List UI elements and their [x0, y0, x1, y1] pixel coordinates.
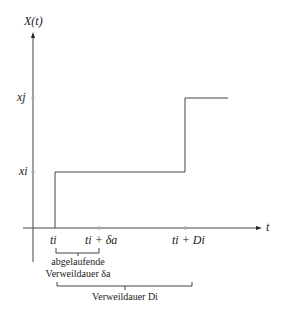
level-xi-label: xi [19, 164, 28, 179]
brace-elapsed-duration [56, 248, 99, 256]
tick-ti-Di-label: ti + Di [172, 233, 205, 248]
brace-total-duration [57, 282, 192, 290]
step-function-path [55, 98, 228, 228]
brace-total-label: Verweildauer Di [85, 291, 165, 303]
x-axis-label: t [266, 220, 269, 235]
y-axis-label: X(t) [24, 14, 43, 29]
tick-ti-delta-label: ti + δa [85, 233, 117, 248]
level-xj-label: xj [17, 90, 26, 105]
brace-elapsed-label: abgelaufende Verweildauer δa [38, 256, 118, 280]
tick-ti-label: ti [50, 233, 57, 248]
y-axis-arrow-icon [31, 32, 35, 38]
x-axis-arrow-icon [256, 226, 262, 230]
